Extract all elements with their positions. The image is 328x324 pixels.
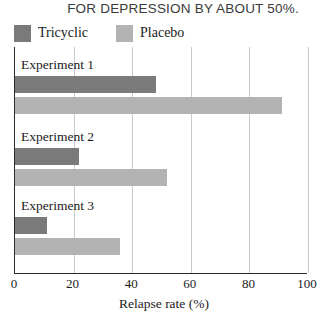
legend-label-placebo: Placebo xyxy=(140,25,184,41)
x-axis-tick-labels: 020406080100 xyxy=(14,276,307,292)
x-tick-60: 60 xyxy=(183,276,196,292)
bar-group-label: Experiment 3 xyxy=(21,198,94,214)
bar-group-label: Experiment 1 xyxy=(21,57,94,73)
chart-title: FOR DEPRESSION BY ABOUT 50%. xyxy=(0,0,328,17)
bar-tricyclic-3 xyxy=(15,217,47,234)
plot-area: Experiment 1Experiment 2Experiment 3 xyxy=(14,47,307,274)
bar-tricyclic-2 xyxy=(15,148,79,165)
legend-label-tricyclic: Tricyclic xyxy=(38,25,88,41)
legend-swatch-tricyclic xyxy=(14,25,31,42)
chart-plot: Experiment 1Experiment 2Experiment 3 xyxy=(14,47,307,274)
x-tick-0: 0 xyxy=(11,276,18,292)
legend-item-tricyclic: Tricyclic xyxy=(14,25,88,42)
bar-group-label: Experiment 2 xyxy=(21,129,94,145)
x-axis-label: Relapse rate (%) xyxy=(0,296,328,312)
bar-placebo-2 xyxy=(15,169,167,186)
bar-placebo-3 xyxy=(15,238,120,255)
chart-title-text: FOR DEPRESSION BY ABOUT 50%. xyxy=(0,0,328,17)
x-tick-20: 20 xyxy=(66,276,79,292)
bar-placebo-1 xyxy=(15,97,282,114)
chart-legend: Tricyclic Placebo xyxy=(14,22,184,44)
legend-swatch-placebo xyxy=(116,25,133,42)
x-tick-100: 100 xyxy=(297,276,317,292)
x-tick-80: 80 xyxy=(242,276,255,292)
gridline xyxy=(249,47,250,273)
bar-tricyclic-1 xyxy=(15,76,156,93)
x-tick-40: 40 xyxy=(125,276,138,292)
gridline xyxy=(191,47,192,273)
legend-item-placebo: Placebo xyxy=(116,25,184,42)
gridline xyxy=(308,47,309,273)
